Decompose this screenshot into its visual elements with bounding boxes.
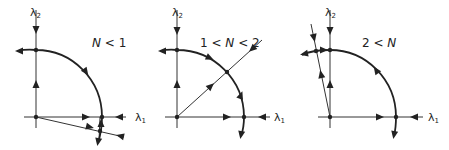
arrow-right-icon — [223, 114, 231, 121]
lambda2-label: λ2 — [325, 6, 336, 20]
panel-n-between-1-and-2: λ2 λ1 1 < N < 2 — [158, 6, 285, 140]
arrow-down-icon — [33, 26, 40, 34]
circle-arc — [161, 50, 244, 136]
arrow-up-icon — [327, 80, 334, 88]
lambda1-label: λ1 — [135, 111, 146, 125]
arrow-down-icon — [390, 130, 398, 139]
fixed-point — [225, 70, 229, 74]
fixed-point — [394, 115, 398, 119]
lambda2-label: λ2 — [30, 6, 41, 20]
arrow-arc-up-icon — [236, 90, 245, 100]
panel-title: N < 1 — [92, 36, 126, 50]
slanted-trajectory — [36, 117, 124, 137]
arrow-left-icon — [158, 48, 166, 55]
arrow-right-icon — [320, 47, 328, 54]
arrow-up-icon — [33, 80, 40, 88]
arrow-left-icon — [15, 48, 23, 55]
panel-n-less-than-1: λ2 λ1 N < 1 — [15, 6, 146, 147]
arrow-down-icon — [327, 27, 334, 35]
lambda1-label: λ1 — [274, 111, 285, 125]
arrow-down-icon — [174, 27, 181, 35]
circle-arc — [302, 50, 396, 136]
phase-portrait-diagram: λ2 λ1 N < 1 λ2 λ1 1 < N < 2 — [0, 0, 449, 150]
fixed-point — [98, 129, 102, 133]
fixed-point — [328, 48, 332, 52]
arrow-up-icon — [174, 80, 181, 88]
panel-title: 1 < N < 2 — [200, 36, 260, 50]
fixed-point — [100, 115, 104, 119]
arrow-down-icon — [237, 130, 245, 139]
panel-title: 2 < N — [362, 36, 396, 50]
fixed-point — [328, 115, 332, 119]
arrow-left-icon — [410, 114, 418, 121]
arrow-left-icon — [115, 114, 123, 121]
fixed-point — [175, 48, 179, 52]
arrow-left-icon — [258, 114, 266, 121]
arrow-slant-back-icon — [115, 132, 124, 141]
arrow-slant-down-icon — [310, 33, 319, 42]
arrow-right-icon — [82, 114, 90, 121]
arrow-left-icon — [299, 50, 308, 59]
lambda2-label: λ2 — [172, 6, 183, 20]
arrow-right-icon — [376, 114, 384, 121]
arrow-up-icon — [98, 119, 105, 127]
fixed-point — [34, 115, 38, 119]
fixed-point — [175, 115, 179, 119]
arrow-down-icon — [94, 137, 102, 146]
panel-n-greater-than-2: λ2 λ1 2 < N — [299, 6, 439, 140]
fixed-point — [242, 115, 246, 119]
lambda1-label: λ1 — [428, 111, 439, 125]
fixed-point — [34, 48, 38, 52]
fixed-point — [314, 49, 318, 53]
